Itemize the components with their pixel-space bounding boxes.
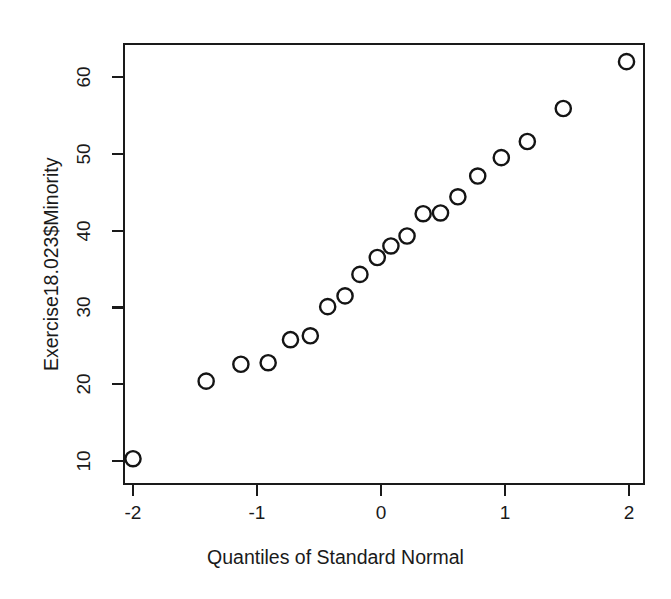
- x-tick-label: 1: [480, 502, 530, 524]
- data-point: [283, 332, 298, 347]
- x-tick-label: 2: [604, 502, 654, 524]
- y-tick-label: 60: [73, 55, 95, 99]
- y-tick-label: 40: [73, 209, 95, 253]
- x-axis-ticks: [133, 484, 629, 496]
- data-point: [619, 54, 634, 69]
- data-point: [494, 150, 509, 165]
- y-tick-label: 30: [73, 285, 95, 329]
- data-point: [450, 189, 465, 204]
- data-point: [370, 250, 385, 265]
- data-point: [337, 288, 352, 303]
- data-point: [352, 267, 367, 282]
- data-point: [416, 206, 431, 221]
- x-axis-label: Quantiles of Standard Normal: [0, 546, 671, 569]
- x-tick-label: 0: [356, 502, 406, 524]
- data-points: [125, 54, 634, 466]
- x-tick-label: -2: [108, 502, 158, 524]
- data-point: [320, 299, 335, 314]
- data-point: [199, 374, 214, 389]
- y-tick-label: 20: [73, 362, 95, 406]
- data-point: [556, 101, 571, 116]
- y-axis-ticks: [112, 77, 124, 461]
- data-point: [261, 355, 276, 370]
- x-tick-label: -1: [232, 502, 282, 524]
- data-point: [383, 238, 398, 253]
- plot-canvas: [0, 0, 671, 599]
- data-point: [520, 134, 535, 149]
- plot-frame: [124, 44, 644, 484]
- data-point: [433, 205, 448, 220]
- data-point: [303, 328, 318, 343]
- data-point: [399, 228, 414, 243]
- y-axis-label: Exercise18.023$Minority: [40, 157, 63, 371]
- y-tick-label: 10: [73, 439, 95, 483]
- qq-plot-figure: 102030405060 -2-1012 Exercise18.023$Mino…: [0, 0, 671, 599]
- data-point: [233, 357, 248, 372]
- data-point: [125, 451, 140, 466]
- data-point: [470, 168, 485, 183]
- y-tick-label: 50: [73, 132, 95, 176]
